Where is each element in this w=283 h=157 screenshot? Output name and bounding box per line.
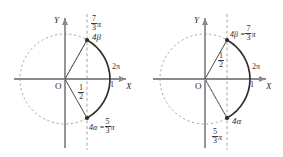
half-label: 1 2 [78,84,84,102]
y-axis-label: Y [54,16,59,25]
bold-arc-top [227,40,250,79]
tick-label-one: 1 [110,81,114,89]
left-panel-graphic [0,0,141,157]
point-marker-top [225,38,229,42]
diagram-panel-left: Y X O 7 3 π 4β 2π 1 1 2 [0,0,141,157]
pi-symbol-top: π [97,20,101,29]
angle-label-seven-thirds-pi: 7 3 π [91,15,101,33]
bold-arc-bottom [227,79,250,118]
angle-label-five-thirds-pi: 5 3 π [212,128,222,146]
point-marker-bottom [225,116,229,120]
four-beta-prefix: 4β = [230,30,245,39]
radius-to-point-top [65,40,87,79]
point-label-four-alpha: 4α [232,117,241,126]
point-label-four-beta: 4β = 7 3 π [230,25,255,43]
point-marker-top [85,38,89,42]
x-axis-arrowhead [259,76,266,82]
two-pi-label: 2π [252,63,260,71]
x-axis-label: X [266,82,272,91]
pi-symbol-bottom: π [111,123,115,132]
math-figure: Y X O 7 3 π 4β 2π 1 1 2 [0,0,283,157]
x-axis-label: X [126,82,132,91]
diagram-panel-right: Y X O 4β = 7 3 π 2π 1 1 2 4α [141,0,283,157]
two-pi-label: 2π [112,63,120,71]
pi-symbol-top: π [251,30,255,39]
origin-label: O [195,82,202,91]
fraction-one-half: 1 2 [218,52,224,70]
point-label-four-alpha: 4α = 5 3 π [89,118,115,136]
bold-arc-top [87,40,110,79]
four-alpha-prefix: 4α = [89,123,105,132]
tick-label-one: 1 [250,81,254,89]
pi-symbol-bottom: π [218,133,222,142]
bold-arc-bottom [87,79,110,118]
y-axis-arrowhead [62,18,68,25]
origin-label: O [55,82,62,91]
y-axis-arrowhead [202,18,208,25]
fraction-one-half: 1 2 [78,84,84,102]
y-axis-label: Y [194,16,199,25]
point-label-four-beta: 4β [92,33,101,42]
x-axis-arrowhead [119,76,126,82]
half-label: 1 2 [218,52,224,70]
